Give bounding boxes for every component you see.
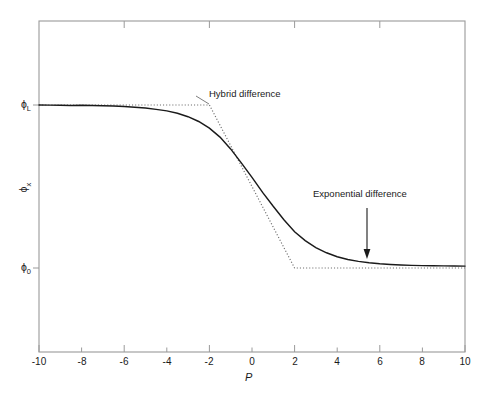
x-tick-label: -6: [110, 356, 138, 367]
phi-subscript: L: [27, 104, 31, 113]
phi-glyph: ϕ: [17, 186, 29, 192]
plot-frame: [39, 21, 465, 352]
y-axis-title: ϕx: [17, 173, 32, 203]
x-tick-label: 8: [408, 356, 436, 367]
annotation-hybrid-difference: Hybrid difference: [209, 88, 281, 99]
x-axis-title: P: [245, 371, 252, 383]
hybrid-leader-line: [196, 96, 209, 104]
x-tick-label: 10: [451, 356, 479, 367]
x-tick-label: -8: [68, 356, 96, 367]
y-tick-label-phi-0: ϕ0: [0, 261, 31, 276]
x-tick-label: 2: [281, 356, 309, 367]
series-exponential-difference: [39, 105, 465, 266]
plot-canvas: [0, 0, 492, 403]
chart-figure: -10 -8 -6 -4 -2 0 2 4 6 8 10 ϕL ϕ0 ϕx P …: [0, 0, 492, 403]
annotation-exponential-difference: Exponential difference: [313, 188, 407, 199]
top-axis-ticks: [124, 21, 380, 28]
phi-subscript: x: [24, 183, 33, 187]
y-tick-label-phi-L: ϕL: [0, 98, 31, 113]
series-hybrid-difference: [39, 105, 465, 268]
x-tick-label: -4: [153, 356, 181, 367]
x-tick-label: 0: [238, 356, 266, 367]
down-arrow-icon: [364, 208, 371, 259]
x-tick-label: -10: [25, 356, 53, 367]
x-tick-label: 6: [366, 356, 394, 367]
phi-subscript: 0: [27, 267, 31, 276]
x-axis-ticks: [39, 345, 465, 352]
x-tick-label: 4: [323, 356, 351, 367]
y-axis-ticks: [33, 105, 39, 268]
x-tick-label: -2: [195, 356, 223, 367]
